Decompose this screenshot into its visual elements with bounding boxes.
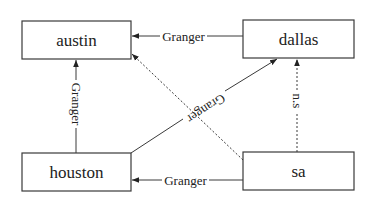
edge-label: Granger — [184, 91, 228, 127]
diagram-svg: austin dallas houston sa Granger Granger — [0, 0, 373, 208]
edge-label: n.s — [290, 94, 305, 109]
causality-diagram: austin dallas houston sa Granger Granger — [0, 0, 373, 208]
node-label-houston: houston — [50, 163, 104, 182]
arrow-diagonal-icon — [225, 59, 277, 91]
edge-label: Granger — [162, 29, 205, 44]
edge-dallas-austin: Granger — [132, 29, 243, 44]
node-label-austin: austin — [56, 31, 97, 50]
node-houston: houston — [22, 153, 131, 191]
node-austin: austin — [22, 21, 131, 59]
edge-houston-dallas: Granger — [131, 59, 277, 153]
arrow-dotted-icon — [132, 54, 243, 160]
edge-line — [131, 119, 183, 153]
edge-label: Granger — [69, 83, 84, 126]
node-sa: sa — [243, 152, 354, 190]
edge-houston-austin: Granger — [69, 60, 84, 153]
node-label-dallas: dallas — [279, 30, 319, 49]
edge-label: Granger — [164, 173, 207, 188]
edge-sa-dallas: n.s — [290, 59, 305, 152]
node-dallas: dallas — [243, 20, 354, 58]
node-label-sa: sa — [291, 162, 306, 181]
edge-sa-houston: Granger — [132, 173, 243, 188]
edge-sa-austin — [132, 54, 243, 160]
